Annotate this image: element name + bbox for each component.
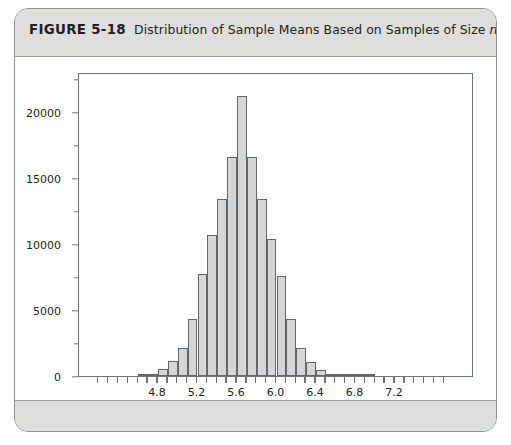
figure-caption-text-a: Distribution of Sample Means Based on Sa… [134, 22, 490, 37]
y-axis-tick-label: 15000 [26, 172, 61, 185]
x-axis-tick [304, 377, 305, 383]
x-axis-tick [235, 377, 236, 383]
x-axis-tick [156, 377, 157, 383]
x-axis-tick [423, 377, 424, 383]
x-axis-tick [196, 377, 197, 383]
x-axis-tick [314, 377, 315, 383]
x-axis-tick [127, 377, 128, 383]
x-axis-tick-label: 5.2 [188, 386, 206, 399]
x-axis-tick [393, 377, 394, 383]
histogram-bar [227, 157, 237, 376]
figure-card: FIGURE 5-18 Distribution of Sample Means… [14, 8, 497, 432]
histogram-bar [237, 96, 247, 376]
x-axis-tick [433, 377, 434, 383]
histogram-bar [346, 374, 356, 376]
histogram-bars [79, 74, 472, 376]
x-axis-tick [443, 377, 444, 383]
x-axis-tick [265, 377, 266, 383]
x-axis-tick [344, 377, 345, 383]
histogram-bar [257, 199, 267, 376]
y-axis-tick-label: 20000 [26, 106, 61, 119]
figure-number: FIGURE 5-18 [29, 22, 126, 37]
histogram-bar [198, 274, 208, 376]
histogram-bar [306, 362, 316, 376]
x-axis-tick [334, 377, 335, 383]
x-axis-tick-label: 6.4 [306, 386, 324, 399]
x-axis-tick [374, 377, 375, 383]
x-axis-tick [403, 377, 404, 383]
x-axis-tick [107, 377, 108, 383]
histogram-bar [336, 374, 346, 376]
x-axis-tick [117, 377, 118, 383]
histogram-bar [168, 361, 178, 376]
y-axis-tick-label: 0 [54, 371, 61, 384]
x-axis-tick [206, 377, 207, 383]
chart-canvas: 05000100001500020000 4.85.25.66.06.46.87… [15, 57, 496, 400]
x-axis-tick-label: 4.8 [148, 386, 166, 399]
y-axis: 05000100001500020000 [15, 73, 73, 377]
x-axis-tick [285, 377, 286, 383]
x-axis-tick [216, 377, 217, 383]
x-axis-tick [146, 377, 147, 383]
plot-frame [78, 73, 473, 377]
histogram-bar [158, 369, 168, 376]
histogram-bar [217, 199, 227, 376]
x-axis-tick [413, 377, 414, 383]
histogram-bar [247, 157, 257, 376]
x-axis-tick [186, 377, 187, 383]
x-axis-tick [176, 377, 177, 383]
y-axis-tick-label: 10000 [26, 238, 61, 251]
x-axis-tick-label: 6.8 [346, 386, 364, 399]
histogram-bar [326, 374, 336, 376]
x-axis-tick [245, 377, 246, 383]
x-axis-tick [97, 377, 98, 383]
x-axis-tick [255, 377, 256, 383]
x-axis-tick [166, 377, 167, 383]
histogram-bar [178, 348, 188, 376]
x-axis-tick [137, 377, 138, 383]
histogram-bar [138, 374, 148, 376]
histogram-bar [188, 319, 198, 376]
histogram-bar [207, 235, 217, 376]
histogram-bar [267, 239, 277, 376]
histogram-bar [277, 276, 287, 376]
x-axis-tick [275, 377, 276, 383]
x-axis-tick-label: 5.6 [227, 386, 245, 399]
x-axis-tick [324, 377, 325, 383]
x-axis-tick-label: 6.0 [267, 386, 285, 399]
figure-footer-band [15, 400, 496, 431]
histogram-bar [316, 370, 326, 376]
histogram-bar [286, 319, 296, 376]
histogram-bar [296, 348, 306, 376]
y-axis-tick-label: 5000 [33, 304, 61, 317]
histogram-bar [148, 374, 158, 376]
x-axis-ticks [78, 377, 473, 385]
x-axis-tick [364, 377, 365, 383]
figure-caption-variable: n [490, 22, 497, 37]
figure-caption: FIGURE 5-18 Distribution of Sample Means… [29, 22, 497, 37]
x-axis-tick-label: 7.2 [385, 386, 403, 399]
x-axis-tick [383, 377, 384, 383]
figure-caption-band: FIGURE 5-18 Distribution of Sample Means… [15, 9, 496, 57]
x-axis-tick [295, 377, 296, 383]
x-axis-tick [225, 377, 226, 383]
histogram-bar [365, 374, 375, 376]
histogram-bar [356, 374, 366, 376]
x-axis-tick [354, 377, 355, 383]
